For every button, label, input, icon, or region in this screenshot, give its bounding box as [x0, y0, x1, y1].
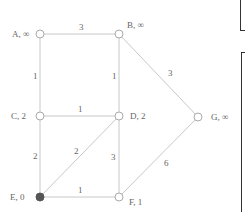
node-label-a: A, ∞: [12, 29, 29, 39]
node-c: [36, 112, 44, 120]
node-label-c: C, 2: [11, 111, 26, 121]
node-d: [115, 112, 123, 120]
node-f: [115, 193, 123, 201]
edge-weight: 1: [33, 71, 38, 81]
edge-weight: 1: [78, 185, 83, 195]
edge-weight: 2: [33, 151, 38, 161]
edge-weight: 3: [79, 22, 84, 32]
edge-weight: 1: [78, 104, 83, 114]
node-a: [36, 30, 44, 38]
node-label-g: G, ∞: [211, 112, 228, 122]
node-e: [36, 193, 44, 201]
edge-weight: 1: [112, 71, 117, 81]
node-label-d: D, 2: [130, 111, 146, 121]
edge-weight: 3: [168, 68, 173, 78]
node-label-b: B, ∞: [127, 20, 144, 30]
node-b: [115, 30, 123, 38]
edge-g-f: [119, 117, 198, 197]
node-g: [194, 113, 202, 121]
top-right-panel: [240, 0, 245, 31]
graph-diagram: 3113122361A, ∞B, ∞C, 2D, 2G, ∞E, 0F, 1: [0, 0, 245, 212]
bottom-right-panel: [241, 52, 245, 212]
edge-weight: 2: [74, 146, 79, 156]
node-label-e: E, 0: [10, 192, 25, 202]
edge-weight: 3: [111, 152, 116, 162]
node-label-f: F, 1: [129, 197, 142, 207]
edge-b-g: [119, 34, 198, 117]
edge-weight: 6: [164, 158, 169, 168]
